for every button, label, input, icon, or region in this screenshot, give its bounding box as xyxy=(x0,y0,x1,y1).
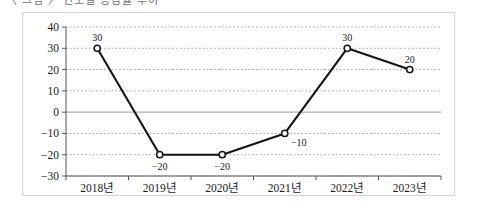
cropped-caption-strip: 〈 그림 〉 연도별 증감률 추이 xyxy=(0,0,485,9)
series-polyline xyxy=(97,48,410,154)
data-point-marker[interactable] xyxy=(407,66,413,72)
line-chart: 403020100−10−20−30 2018년2019년2020년2021년2… xyxy=(23,13,456,197)
y-axis xyxy=(62,27,66,176)
chart-frame: 403020100−10−20−30 2018년2019년2020년2021년2… xyxy=(22,12,455,196)
x-tick-label: 2020년 xyxy=(205,182,239,194)
y-tick-label: 10 xyxy=(48,85,60,97)
data-point-marker[interactable] xyxy=(344,45,350,51)
x-tick-label: 2022년 xyxy=(330,182,364,194)
data-point-label: 20 xyxy=(405,54,415,65)
data-point-markers xyxy=(94,45,413,158)
y-tick-label: −10 xyxy=(41,127,59,139)
x-tick-label: 2019년 xyxy=(143,182,177,194)
y-tick-label: 0 xyxy=(53,106,59,118)
x-tick-label: 2021년 xyxy=(268,182,302,194)
caption-text-fragment: 〈 그림 〉 연도별 증감률 추이 xyxy=(6,0,159,7)
data-point-label: 30 xyxy=(92,32,102,43)
x-axis xyxy=(66,176,441,180)
y-tick-label: 20 xyxy=(48,64,60,76)
data-point-label: −20 xyxy=(152,161,168,172)
x-tick-label: 2023년 xyxy=(393,182,427,194)
data-point-label: −10 xyxy=(291,137,307,148)
data-point-marker[interactable] xyxy=(219,152,225,158)
gridlines xyxy=(66,27,441,176)
y-tick-label: 30 xyxy=(48,42,60,54)
y-tick-labels: 403020100−10−20−30 xyxy=(41,21,59,182)
data-point-marker[interactable] xyxy=(157,152,163,158)
y-tick-label: −30 xyxy=(41,170,59,182)
data-point-label: −20 xyxy=(214,161,230,172)
data-point-label: 30 xyxy=(342,32,352,43)
y-tick-label: −20 xyxy=(41,149,59,161)
data-point-labels: 30−20−20−103020 xyxy=(92,32,415,171)
chart-canvas: 403020100−10−20−30 2018년2019년2020년2021년2… xyxy=(23,13,456,197)
data-point-marker[interactable] xyxy=(282,130,288,136)
x-tick-labels: 2018년2019년2020년2021년2022년2023년 xyxy=(80,182,427,194)
y-tick-label: 40 xyxy=(48,21,60,33)
series-line xyxy=(97,48,410,154)
data-point-marker[interactable] xyxy=(94,45,100,51)
x-tick-label: 2018년 xyxy=(80,182,114,194)
